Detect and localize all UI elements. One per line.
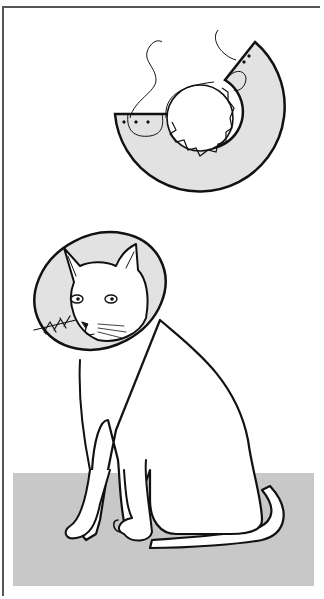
cat bbox=[14, 210, 284, 548]
illustration bbox=[0, 0, 324, 599]
collar-pattern bbox=[115, 30, 285, 192]
